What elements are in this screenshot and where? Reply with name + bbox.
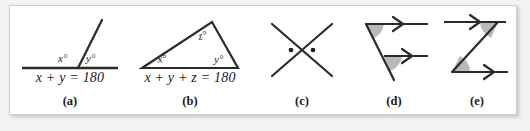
panel-b-equation: x + y + z = 180 bbox=[128, 70, 252, 86]
angle-label-x: x° bbox=[57, 52, 68, 64]
angle-label-z: z° bbox=[196, 28, 209, 42]
panel-b: x° y° z° x + y + z = 180 (b) bbox=[128, 6, 252, 116]
figure-panel: x° y° x + y = 180 (a) x° y° z° x + y + z… bbox=[9, 5, 517, 115]
panel-a-equation: x + y = 180 bbox=[10, 70, 130, 86]
panel-c: (c) bbox=[252, 6, 352, 116]
angle-dot-right bbox=[311, 48, 316, 53]
panel-b-caption: (b) bbox=[128, 94, 252, 109]
panel-e: (e) bbox=[436, 6, 518, 116]
geometry-figure: x° y° x + y = 180 (a) x° y° z° x + y + z… bbox=[0, 0, 530, 131]
angle-dot-left bbox=[289, 48, 294, 53]
triangle bbox=[142, 22, 238, 68]
panel-d-diagram bbox=[352, 6, 436, 86]
panel-d-caption: (d) bbox=[352, 94, 436, 109]
panel-c-caption: (c) bbox=[252, 94, 352, 109]
angle-label-y: y° bbox=[213, 53, 224, 65]
angle-label-y: y° bbox=[85, 52, 96, 64]
panel-e-diagram bbox=[436, 6, 518, 86]
panel-a: x° y° x + y = 180 (a) bbox=[10, 6, 130, 116]
angle-label-x: x° bbox=[155, 52, 168, 66]
panel-c-diagram bbox=[252, 6, 352, 86]
panel-e-caption: (e) bbox=[436, 94, 518, 109]
transversal bbox=[452, 22, 498, 72]
panel-d: (d) bbox=[352, 6, 436, 116]
panel-a-caption: (a) bbox=[10, 94, 130, 109]
